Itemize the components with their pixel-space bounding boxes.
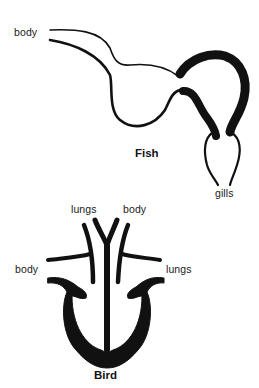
bird-circulation — [48, 220, 164, 368]
fish-body-vessel-upper — [50, 30, 178, 76]
bird-label-lungs-right: lungs — [166, 264, 192, 275]
fish-title: Fish — [135, 148, 159, 160]
fish-atrium-limb — [183, 91, 216, 136]
fish-gill-right-outer — [230, 133, 240, 185]
bird-label-body-top: body — [123, 204, 146, 215]
fish-circulation — [50, 30, 245, 185]
fish-label-body: body — [14, 27, 37, 38]
fish-gill-left-outer — [205, 133, 218, 185]
fish-label-gills: gills — [215, 188, 234, 199]
bird-lungs-vessel-right — [122, 254, 160, 260]
bird-aorta-left-branch — [95, 220, 107, 245]
bird-body-vessel-left — [48, 254, 90, 260]
bird-label-body-left: body — [15, 264, 38, 275]
bird-label-lungs-top: lungs — [71, 204, 97, 215]
fish-body-vessel-lower — [50, 40, 180, 126]
bird-aorta-right-branch — [107, 220, 117, 245]
bird-title: Bird — [94, 370, 117, 382]
